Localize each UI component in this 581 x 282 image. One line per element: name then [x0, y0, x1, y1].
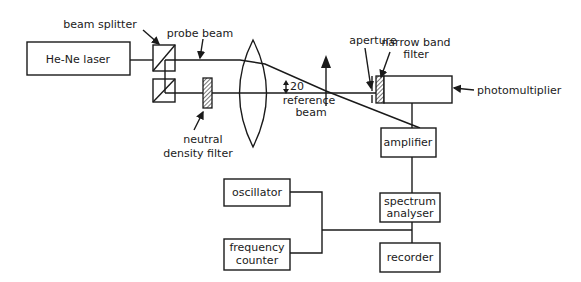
nd-filter-label-2: density filter [163, 147, 233, 160]
frequency-counter-label-2: counter [236, 254, 279, 267]
he-ne-laser: He-Ne laser [27, 42, 130, 75]
oscillator: oscillator [224, 179, 290, 206]
amplifier: amplifier [381, 128, 436, 157]
neutral-density-filter [203, 78, 212, 108]
spectrum-analyser-label-2: analyser [386, 207, 434, 220]
aperture-pointer [365, 48, 371, 88]
spectrum-analyser: spectrum analyser [380, 193, 440, 222]
recorder-label: recorder [387, 251, 434, 264]
recorder: recorder [380, 243, 440, 272]
probe-beam-pointer [200, 39, 203, 58]
angle-label: 20 [290, 80, 304, 93]
frequency-counter: frequency counter [224, 239, 290, 270]
frequency-counter-label-1: frequency [229, 241, 285, 254]
reference-beam-label-2: beam [295, 106, 326, 119]
photomultiplier-pointer [454, 88, 474, 90]
he-ne-laser-label: He-Ne laser [46, 53, 111, 66]
narrow-band-filter-pointer [381, 52, 390, 77]
beam-splitter-pointer [143, 30, 159, 44]
nd-filter-pointer [194, 112, 203, 130]
beam-splitter-label: beam splitter [63, 18, 137, 31]
probe-beam-label: probe beam [167, 27, 233, 40]
narrow-band-filter-label-2: filter [403, 48, 429, 61]
photomultiplier-label: photomultiplier [477, 84, 562, 97]
narrow-band-filter [376, 76, 384, 103]
amplifier-label: amplifier [384, 136, 433, 149]
angle-marker [283, 80, 289, 94]
photomultiplier [384, 76, 452, 103]
oscillator-label: oscillator [232, 186, 282, 199]
nd-filter-label-1: neutral [183, 133, 222, 146]
oscillator-counter-wire [290, 192, 322, 253]
optical-setup-diagram: He-Ne laser beam splitter probe beam neu… [0, 0, 581, 282]
